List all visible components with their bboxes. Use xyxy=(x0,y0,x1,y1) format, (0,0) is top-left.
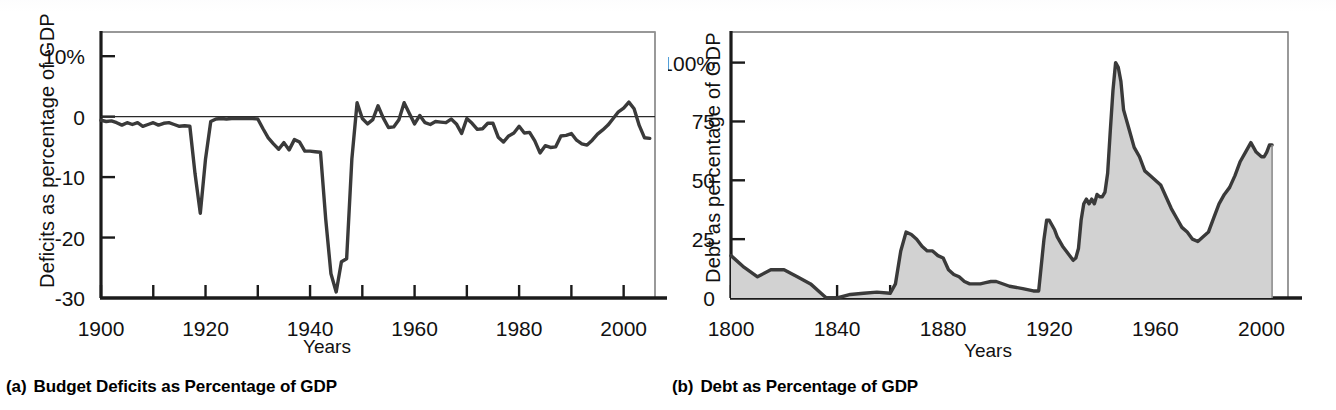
debt-x-axis-label: Years xyxy=(964,340,1012,362)
deficits-data-line xyxy=(101,102,650,292)
deficits-x-axis-label: Years xyxy=(303,336,351,358)
deficits-caption: (a)Budget Deficits as Percentage of GDP xyxy=(6,377,337,397)
panel-budget-deficits: 10%0-10-20-30190019201940196019802000 De… xyxy=(0,0,668,410)
debt-y-axis-label: Debt as percentage of GDP xyxy=(702,32,725,283)
panel-debt: 100%7550250180018401880192019602000 Debt… xyxy=(668,0,1336,410)
deficits-x-tick-label: 1960 xyxy=(391,317,438,340)
debt-x-tick-label: 1800 xyxy=(708,317,755,340)
deficits-y-tick-label: -30 xyxy=(55,287,85,310)
debt-x-tick-label: 1840 xyxy=(814,317,861,340)
deficits-y-tick-label: -10 xyxy=(55,166,85,189)
debt-x-tick-label: 1960 xyxy=(1132,317,1179,340)
deficits-plot-frame xyxy=(101,32,655,298)
deficits-y-axis-label: Deficits as percentage of GDP xyxy=(36,13,59,288)
deficits-caption-text: Budget Deficits as Percentage of GDP xyxy=(33,377,336,396)
deficits-y-tick-label: 0 xyxy=(73,106,85,129)
deficits-x-tick-label: 2000 xyxy=(600,317,647,340)
figure-panels: 10%0-10-20-30190019201940196019802000 De… xyxy=(0,0,1336,410)
debt-caption-text: Debt as Percentage of GDP xyxy=(700,377,918,396)
debt-caption-mark: (b) xyxy=(672,377,693,396)
deficits-x-tick-label: 1980 xyxy=(496,317,543,340)
deficits-caption-mark: (a) xyxy=(6,377,26,396)
debt-x-tick-label: 2000 xyxy=(1238,317,1285,340)
debt-x-tick-label: 1880 xyxy=(920,317,967,340)
debt-x-tick-label: 1920 xyxy=(1026,317,1073,340)
debt-y-tick-label: 0 xyxy=(703,287,715,310)
debt-area-fill xyxy=(731,63,1272,298)
deficits-x-tick-label: 1920 xyxy=(182,317,229,340)
deficits-x-tick-label: 1900 xyxy=(78,317,125,340)
debt-caption: (b)Debt as Percentage of GDP xyxy=(672,377,918,397)
deficits-y-tick-label: -20 xyxy=(55,227,85,250)
